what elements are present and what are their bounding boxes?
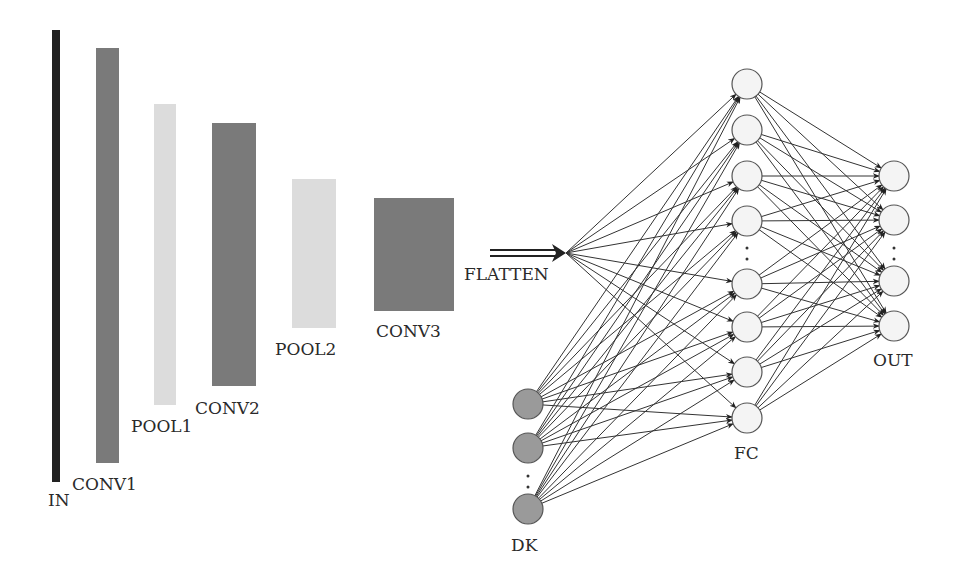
- out-neuron: [879, 266, 909, 296]
- dk-neuron: [513, 433, 543, 463]
- edge-dk-fc: [528, 424, 733, 509]
- fc-label: FC: [734, 443, 759, 463]
- layer-conv3-label: CONV3: [376, 321, 441, 341]
- edge-flatten-fc: [566, 253, 734, 364]
- dk-neuron: [513, 494, 543, 524]
- out-ellipsis-dot: [893, 247, 896, 250]
- layer-conv1-bar: [96, 48, 119, 463]
- layer-pool1-label: POOL1: [131, 416, 192, 436]
- edge-dk-fc: [528, 97, 740, 509]
- edge-dk-fc: [528, 332, 733, 404]
- fc-neuron: [732, 115, 762, 145]
- layer-conv1-label: CONV1: [72, 474, 137, 494]
- edge-fc-out: [747, 291, 883, 418]
- out-label: OUT: [873, 350, 913, 370]
- edge-dk-fc: [528, 188, 738, 448]
- fc-ellipsis-dot: [746, 258, 749, 261]
- edge-flatten-fc: [566, 224, 732, 253]
- layer-conv2-label: CONV2: [195, 398, 260, 418]
- edge-fc-out: [747, 326, 879, 327]
- fc-neuron: [732, 161, 762, 191]
- layer-conv2-bar: [212, 123, 256, 386]
- layer-pool1-bar: [154, 104, 176, 405]
- layer-pool2-bar: [292, 179, 336, 328]
- flatten-arrow: [490, 244, 566, 262]
- fc-ellipsis-dot: [746, 247, 749, 250]
- layer-in-label: IN: [48, 490, 70, 510]
- fc-neuron: [732, 69, 762, 99]
- edge-dk-fc: [528, 143, 739, 509]
- connections: [528, 84, 886, 509]
- out-neuron: [879, 311, 909, 341]
- edge-dk-fc: [528, 293, 735, 448]
- edge-dk-fc: [528, 337, 735, 509]
- edge-flatten-fc: [566, 94, 736, 253]
- out-ellipsis-dot: [893, 258, 896, 261]
- fc-neuron: [732, 312, 762, 342]
- flatten-label: FLATTEN: [464, 264, 549, 284]
- out-neuron: [879, 161, 909, 191]
- edge-fc-out: [747, 334, 881, 418]
- edge-fc-out: [747, 229, 882, 327]
- ellipsis-dots: [527, 247, 896, 489]
- layer-conv3-bar: [374, 198, 454, 311]
- layer-pool2-label: POOL2: [275, 339, 336, 359]
- edge-fc-out: [747, 221, 880, 275]
- dk-ellipsis-dot: [527, 486, 530, 489]
- edge-fc-out: [747, 289, 881, 372]
- dk-ellipsis-dot: [527, 475, 530, 478]
- fc-neuron: [732, 269, 762, 299]
- fc-neuron: [732, 403, 762, 433]
- fc-neuron: [732, 206, 762, 236]
- dk-neuron: [513, 389, 543, 419]
- fc-neuron: [732, 357, 762, 387]
- edge-dk-fc: [528, 142, 738, 448]
- out-neuron: [879, 205, 909, 235]
- edge-flatten-fc: [566, 182, 733, 253]
- edge-fc-out: [747, 232, 885, 418]
- cnn-diagram: IN CONV1 POOL1 CONV2 POOL2 CONV3 FLATTEN…: [0, 0, 964, 587]
- edge-fc-out: [747, 84, 881, 168]
- dk-label: DK: [511, 535, 538, 555]
- edge-dk-fc: [528, 334, 734, 448]
- edge-fc-out: [747, 220, 879, 221]
- layer-in-bar: [52, 30, 60, 482]
